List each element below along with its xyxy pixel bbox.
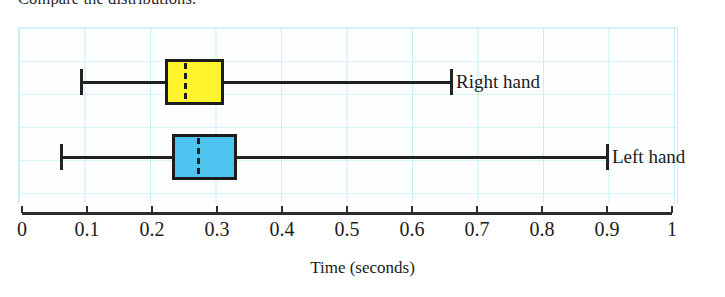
- x-tick-label: 0.4: [252, 217, 312, 241]
- median-line: [197, 138, 200, 176]
- x-tick: [346, 206, 348, 213]
- x-axis-title: Time (seconds): [0, 258, 725, 278]
- iqr-box: [172, 134, 237, 180]
- x-tick: [86, 206, 88, 213]
- series-label: Right hand: [456, 71, 540, 93]
- x-tick-label: 0.5: [317, 217, 377, 241]
- lower-whisker-line: [61, 156, 172, 159]
- x-tick-label: 0.2: [122, 217, 182, 241]
- series-label: Left hand: [612, 146, 685, 168]
- median-line: [184, 63, 187, 101]
- x-tick: [151, 206, 153, 213]
- x-tick: [281, 206, 283, 213]
- upper-whisker-cap: [606, 144, 609, 170]
- x-tick-label: 0.1: [57, 217, 117, 241]
- plot-area: 00.10.20.30.40.50.60.70.80.91 Right hand…: [0, 0, 725, 297]
- upper-whisker-cap: [450, 69, 453, 95]
- x-tick: [541, 206, 543, 213]
- lower-whisker-line: [81, 81, 166, 84]
- x-tick: [216, 206, 218, 213]
- x-tick-label: 0.6: [382, 217, 442, 241]
- x-tick: [21, 206, 23, 213]
- x-tick: [476, 206, 478, 213]
- x-tick-label: 0.9: [577, 217, 637, 241]
- lower-whisker-cap: [60, 144, 63, 170]
- upper-whisker-line: [224, 81, 452, 84]
- x-tick-label: 1: [642, 217, 702, 241]
- x-tick: [411, 206, 413, 213]
- x-tick-label: 0: [0, 217, 52, 241]
- x-tick-label: 0.8: [512, 217, 572, 241]
- boxplot-figure: Compare the distributions. 00.10.20.30.4…: [0, 0, 725, 297]
- lower-whisker-cap: [80, 69, 83, 95]
- x-tick-label: 0.7: [447, 217, 507, 241]
- x-tick: [671, 206, 673, 213]
- x-tick-label: 0.3: [187, 217, 247, 241]
- iqr-box: [165, 59, 224, 105]
- x-tick: [606, 206, 608, 213]
- upper-whisker-line: [237, 156, 608, 159]
